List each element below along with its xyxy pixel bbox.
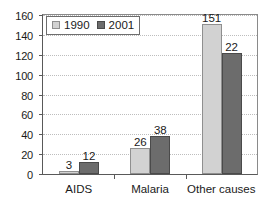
- y-axis-tick-140: 140: [39, 35, 43, 36]
- legend-label-1990: 1990: [64, 19, 90, 31]
- x-axis-tick-1: [114, 174, 115, 179]
- bar-value-aids-1990: 3: [66, 159, 72, 171]
- y-axis-tick-100: 100: [39, 75, 43, 76]
- y-axis-label-60: 60: [21, 110, 33, 121]
- bar-value-aids-2001: 12: [83, 150, 96, 162]
- y-axis-label-40: 40: [21, 130, 33, 141]
- y-axis-tick-20: 20: [39, 154, 43, 155]
- bar-aids-2001[interactable]: 12: [79, 162, 99, 174]
- x-axis-tick-2: [186, 174, 187, 179]
- bar-malaria-1990[interactable]: 26: [130, 148, 150, 174]
- y-axis-label-140: 140: [15, 30, 33, 41]
- y-axis-label-160: 160: [15, 11, 33, 22]
- y-axis-label-20: 20: [21, 150, 33, 161]
- y-axis-tick-160: 160: [39, 15, 43, 16]
- plot-area: 160 140 120 100 80 60 40 20 0 AIDS Ma: [42, 14, 258, 175]
- y-axis-label-80: 80: [21, 90, 33, 101]
- light-gray-swatch-icon: [52, 21, 60, 29]
- bar-aids-1990[interactable]: 3: [59, 171, 79, 174]
- dark-gray-swatch-icon: [97, 21, 105, 29]
- gridline-140: [43, 35, 257, 36]
- y-axis-label-100: 100: [15, 70, 33, 81]
- x-axis-label-malaria: Malaria: [131, 183, 169, 196]
- bar-malaria-2001[interactable]: 38: [150, 136, 170, 174]
- y-axis-tick-40: 40: [39, 134, 43, 135]
- x-axis-label-other-causes: Other causes: [187, 183, 255, 196]
- bar-value-malaria-2001: 38: [154, 124, 167, 136]
- y-axis-tick-60: 60: [39, 114, 43, 115]
- y-axis-label-120: 120: [15, 50, 33, 61]
- legend-item-1990[interactable]: 1990: [52, 19, 90, 31]
- y-axis-label-0: 0: [27, 170, 33, 181]
- bar-value-other-causes-2001: 22: [225, 41, 238, 53]
- bar-other-causes-1990[interactable]: 151: [202, 24, 222, 174]
- y-axis-tick-0: 0: [39, 174, 43, 175]
- bar-chart: 160 140 120 100 80 60 40 20 0 AIDS Ma: [0, 0, 275, 211]
- legend-label-2001: 2001: [109, 19, 135, 31]
- bar-other-causes-2001[interactable]: 22: [222, 53, 242, 174]
- y-axis-tick-120: 120: [39, 55, 43, 56]
- legend-item-2001[interactable]: 2001: [97, 19, 135, 31]
- bar-value-other-causes-1990: 151: [202, 12, 221, 24]
- y-axis-tick-80: 80: [39, 95, 43, 96]
- chart-legend: 1990 2001: [46, 16, 140, 35]
- bar-value-malaria-1990: 26: [134, 136, 147, 148]
- x-axis-label-aids: AIDS: [65, 183, 92, 196]
